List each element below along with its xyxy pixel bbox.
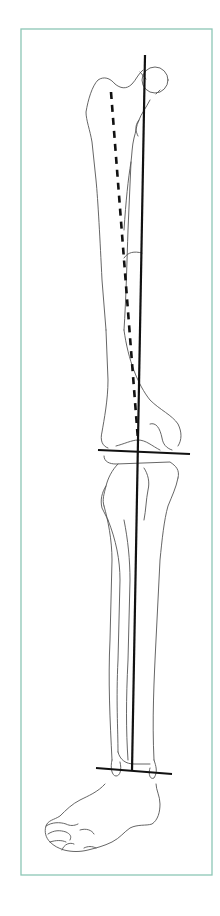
knee-joint-line xyxy=(98,450,190,454)
foot-outline xyxy=(45,784,160,852)
tibia-fibula-outline xyxy=(101,456,178,778)
ankle-joint-line xyxy=(96,768,172,774)
leg-alignment-diagram xyxy=(0,0,220,916)
anatomical-axis-dashed-line xyxy=(111,92,138,440)
mechanical-axis-line xyxy=(132,55,145,771)
figure-frame xyxy=(21,29,212,875)
